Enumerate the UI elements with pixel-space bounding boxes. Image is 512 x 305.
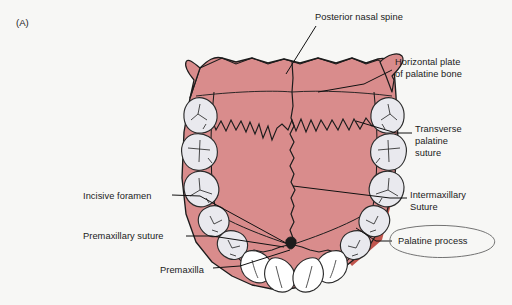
figure-canvas: (A) Posterior nasal spine Horizontal pla… [0,0,512,305]
panel-label: (A) [16,17,29,28]
label-incisive-foramen: Incisive foramen [83,191,152,202]
label-transverse-palatine-suture-line3: suture [415,148,441,159]
label-transverse-palatine-suture-line2: palatine [415,136,448,147]
label-palatine-process: Palatine process [398,236,468,247]
label-transverse-palatine-suture-line1: Transverse [415,124,462,135]
label-premaxilla: Premaxilla [160,265,204,276]
label-intermaxillary-suture-line2: Suture [410,202,438,213]
label-horizontal-plate-line2: of palatine bone [395,69,462,80]
tooth-right-m3 [371,98,404,133]
tooth-right-m2 [371,134,407,171]
tooth-left-m3 [184,98,217,133]
label-premaxillary-suture: Premaxillary suture [83,231,164,242]
tooth-left-pm2 [184,171,219,207]
tooth-left-m2 [182,134,218,171]
label-horizontal-plate-line1: Horizontal plate [395,57,460,68]
tooth-right-pm2 [369,171,404,207]
label-intermaxillary-suture-line1: Intermaxillary [410,190,466,201]
label-posterior-nasal-spine: Posterior nasal spine [315,12,403,23]
